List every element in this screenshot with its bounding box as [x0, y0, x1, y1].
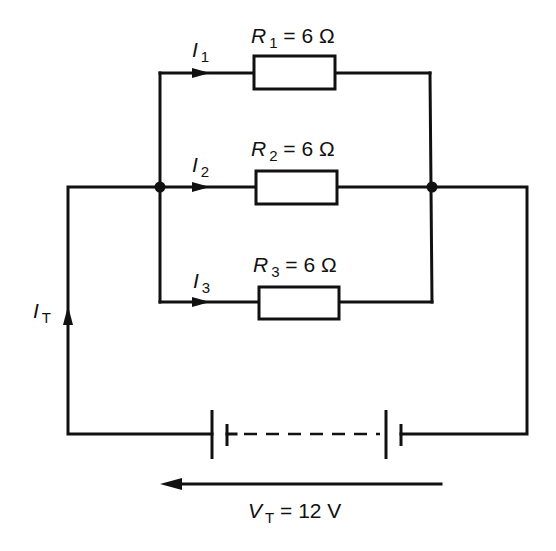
label-vt: VT = 12 V — [248, 500, 341, 525]
junction-right — [427, 182, 438, 193]
label-i2: I2 — [192, 154, 209, 179]
label-i1: I1 — [192, 39, 209, 64]
label-r2: R2 = 6 Ω — [251, 138, 335, 163]
outer-left-wire — [68, 187, 212, 434]
label-r3: R3 = 6 Ω — [253, 254, 337, 279]
arrow-it-icon — [63, 306, 73, 325]
voltage-arrow-icon — [160, 478, 182, 490]
label-it: IT — [33, 300, 51, 325]
outer-right-wire — [401, 187, 527, 434]
arrow-i3-icon — [192, 297, 210, 307]
circuit-diagram: R1 = 6 Ω R2 = 6 Ω R3 = 6 Ω I1 I2 I3 IT V… — [0, 0, 556, 551]
label-r1: R1 = 6 Ω — [251, 25, 335, 50]
arrow-i2-icon — [192, 182, 210, 192]
resistor-r1 — [254, 56, 335, 89]
junction-left — [155, 182, 166, 193]
resistor-r2 — [256, 171, 337, 204]
label-i3: I3 — [193, 270, 210, 295]
arrow-i1-icon — [192, 68, 210, 78]
resistor-r3 — [259, 287, 339, 319]
